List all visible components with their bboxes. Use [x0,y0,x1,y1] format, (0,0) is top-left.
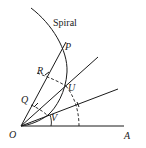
point-label-o: O [9,129,16,140]
ray-op [21,42,66,126]
tick-q [34,103,38,107]
spiral-diagram: Spiral P R U Q V O A [0,0,146,148]
spiral-label: Spiral [53,17,77,28]
ray-ou [21,57,98,126]
point-label-a: A [123,130,131,141]
point-label-v: V [51,112,59,123]
point-label-q: Q [21,94,29,105]
point-label-u: U [68,82,76,93]
point-label-r: R [36,65,43,76]
point-label-p: P [64,41,71,52]
